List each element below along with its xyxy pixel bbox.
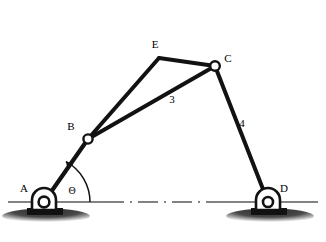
pivot-pin-d [263, 197, 273, 207]
label-joint-e: E [152, 38, 159, 50]
link-3-bar-be [88, 58, 159, 139]
fixed-pivot-d [256, 188, 280, 210]
fixed-pivot-a [32, 188, 56, 210]
pin-joint-c [210, 61, 220, 71]
label-theta-angle: Θ [68, 185, 75, 196]
pin-joint-b [83, 134, 92, 143]
label-joint-c: C [224, 52, 231, 64]
linkage-canvas: A B C D E 3 4 Θ [0, 0, 326, 242]
link-4-rocker-cd [215, 66, 268, 202]
label-link-3: 3 [169, 93, 175, 105]
link-3-bar-bc [88, 66, 215, 139]
link-3-coupler-bec [88, 58, 215, 139]
label-joint-b: B [67, 120, 74, 132]
linkage-diagram: A B C D E 3 4 Θ [0, 0, 326, 242]
link-3-bar-ec [159, 58, 215, 66]
pivot-pin-a [39, 197, 50, 208]
label-link-4: 4 [239, 117, 245, 129]
label-joint-d: D [280, 182, 288, 194]
label-joint-a: A [20, 182, 28, 194]
link-4-bar [215, 66, 268, 202]
